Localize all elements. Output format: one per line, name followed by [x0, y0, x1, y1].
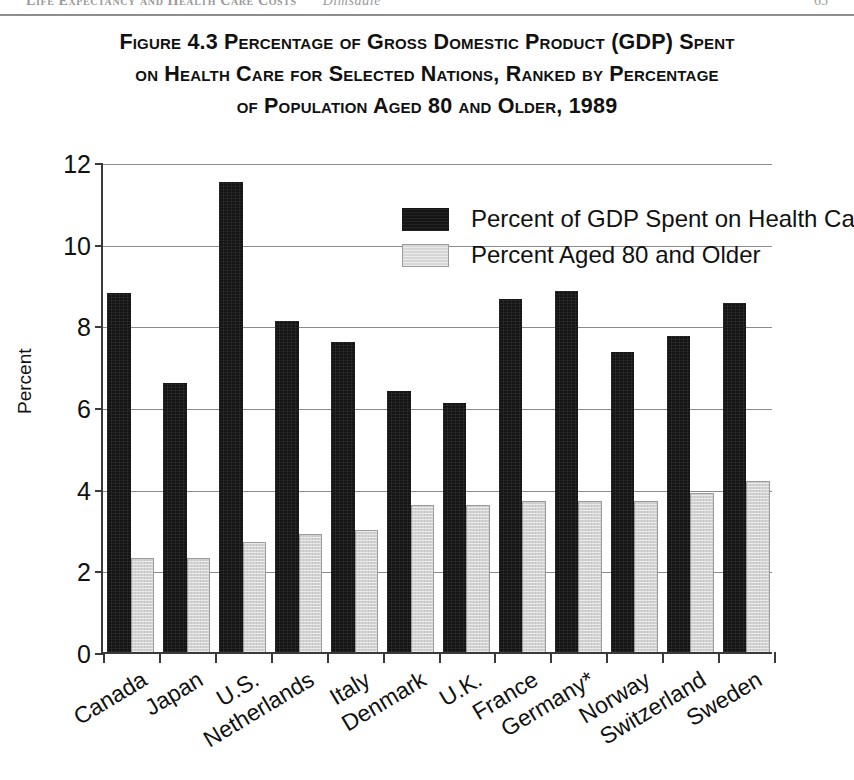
figure-title-line-1: Figure 4.3 Percentage of Gross Domestic …: [40, 26, 814, 58]
header-rule: [0, 14, 854, 16]
running-head: Life Expectancy and Health Care CostsDim…: [0, 0, 854, 14]
legend-item-aged80: Percent Aged 80 and Older: [402, 237, 854, 273]
figure-title-line-2: on Health Care for Selected Nations, Ran…: [40, 58, 814, 90]
bar-gdp: [667, 336, 691, 652]
y-tick-mark: [95, 163, 103, 165]
bar-aged80: [299, 534, 323, 652]
chart-area: Percent 024681012 CanadaJapanU.S.Netherl…: [0, 140, 854, 780]
figure-page: Life Expectancy and Health Care CostsDim…: [0, 0, 854, 780]
x-tick-mark: [327, 652, 329, 663]
y-tick-mark: [95, 653, 103, 655]
y-tick-label: 0: [77, 640, 91, 669]
bar-gdp: [331, 342, 355, 652]
y-tick-label: 12: [63, 150, 91, 179]
x-axis-category-text: Canada: [69, 666, 152, 731]
running-head-left: Life Expectancy and Health Care CostsDim…: [26, 0, 381, 9]
x-tick-mark: [774, 652, 776, 663]
y-tick-mark: [95, 326, 103, 328]
page-number: 65: [814, 0, 828, 9]
y-axis-title: Percent: [14, 349, 36, 414]
bar-aged80: [131, 558, 155, 652]
x-tick-mark: [383, 652, 385, 663]
bar-group: [103, 164, 159, 652]
bar-aged80: [522, 501, 546, 652]
plot-area: 024681012 CanadaJapanU.S.NetherlandsItal…: [101, 164, 772, 654]
bar-gdp: [275, 321, 299, 652]
bar-gdp: [723, 303, 747, 652]
running-head-author: Dimsdale: [297, 0, 381, 8]
legend-swatch-dark-icon: [402, 208, 449, 231]
x-tick-mark: [550, 652, 552, 663]
bar-group: [215, 164, 271, 652]
legend-item-gdp: Percent of GDP Spent on Health Care: [402, 201, 854, 237]
y-tick-label: 2: [77, 558, 91, 587]
x-tick-mark: [271, 652, 273, 663]
running-head-title: Life Expectancy and Health Care Costs: [26, 0, 297, 8]
bar-group: [159, 164, 215, 652]
y-tick-label: 10: [63, 231, 91, 260]
y-tick-label: 4: [77, 476, 91, 505]
x-tick-mark: [606, 652, 608, 663]
chart-legend: Percent of GDP Spent on Health Care Perc…: [402, 201, 854, 273]
figure-title-line-3: of Population Aged 80 and Older, 1989: [40, 90, 814, 122]
y-tick-mark: [95, 571, 103, 573]
x-tick-mark: [215, 652, 217, 663]
legend-label-gdp: Percent of GDP Spent on Health Care: [471, 205, 854, 233]
figure-title: Figure 4.3 Percentage of Gross Domestic …: [40, 26, 814, 122]
bar-gdp: [107, 293, 131, 652]
y-tick-mark: [95, 490, 103, 492]
y-tick-label: 8: [77, 313, 91, 342]
bar-gdp: [443, 403, 467, 652]
bar-gdp: [611, 352, 635, 652]
bar-gdp: [163, 383, 187, 653]
bar-gdp: [219, 182, 243, 652]
x-tick-mark: [718, 652, 720, 663]
y-tick-mark: [95, 245, 103, 247]
bar-group: [327, 164, 383, 652]
bar-gdp: [499, 299, 523, 652]
bar-group: [271, 164, 327, 652]
y-tick-label: 6: [77, 395, 91, 424]
legend-swatch-light-icon: [402, 244, 449, 267]
x-tick-mark: [439, 652, 441, 663]
y-tick-mark: [95, 408, 103, 410]
x-tick-mark: [103, 652, 105, 663]
x-tick-mark: [494, 652, 496, 663]
x-tick-mark: [159, 652, 161, 663]
legend-label-aged80: Percent Aged 80 and Older: [471, 241, 761, 269]
x-tick-mark: [662, 652, 664, 663]
bar-gdp: [555, 291, 579, 652]
